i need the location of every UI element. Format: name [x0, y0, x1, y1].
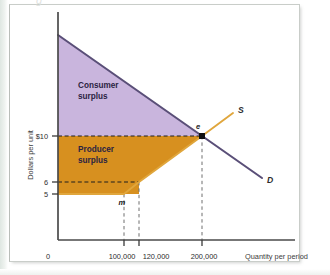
x-axis-ticks: [124, 240, 202, 246]
y-tick-label-5: 5: [44, 190, 48, 199]
y-tick-label-10: $10: [36, 132, 48, 141]
kink-point-label: m: [119, 198, 126, 207]
x-tick-label-0: 0: [46, 252, 50, 261]
equilibrium-point-label: e: [196, 122, 201, 131]
x-tick-label-100000: 100,000: [109, 252, 136, 261]
supply-curve-label: S: [238, 105, 244, 115]
producer-surplus-label-line1: Producer: [78, 145, 115, 154]
equilibrium-point-marker: [199, 133, 205, 139]
supply-demand-chart: $10 6 5 0 100,000 120,000 200,000 Dollar…: [0, 0, 330, 275]
consumer-surplus-label-line2: surplus: [78, 92, 108, 101]
y-axis-title: Dollars per unit: [26, 130, 35, 180]
y-tick-label-6: 6: [44, 178, 48, 187]
consumer-surplus-label-line1: Consumer: [78, 81, 119, 90]
x-tick-label-200000: 200,000: [191, 252, 218, 261]
figure-page: g: [0, 0, 330, 275]
x-tick-label-120000: 120,000: [143, 252, 170, 261]
y-axis-ticks: [52, 136, 58, 194]
producer-surplus-label-line2: surplus: [78, 156, 108, 165]
demand-curve-label: D: [267, 175, 273, 185]
x-axis-title: Quantity per period: [245, 252, 308, 261]
